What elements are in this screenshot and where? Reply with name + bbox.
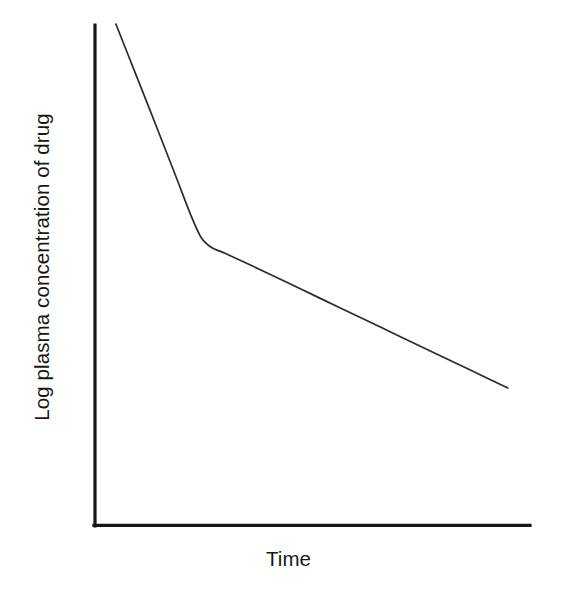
x-axis-label-wrapper: Time [0, 549, 561, 570]
x-axis-label: Time [266, 549, 311, 570]
y-axis-label: Log plasma concentration of drug [32, 113, 53, 420]
plot-area [0, 0, 561, 599]
chart-figure: Log plasma concentration of drug Time [0, 0, 561, 599]
chart-background [0, 0, 561, 599]
